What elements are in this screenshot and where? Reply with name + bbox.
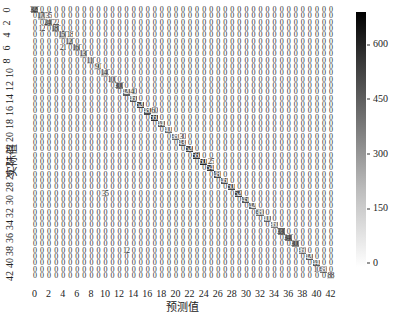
heatmap-cell: 0 xyxy=(299,273,306,279)
y-tick-label: 30 xyxy=(4,195,15,205)
heatmap-cell: 0 xyxy=(292,273,299,279)
heatmap-cell: 0 xyxy=(235,273,242,279)
y-tick-label: 10 xyxy=(4,68,15,78)
x-tick-label: 2 xyxy=(46,288,51,299)
heatmap-cell: 0 xyxy=(179,273,186,279)
x-tick-label: 8 xyxy=(88,288,93,299)
x-tick-label: 26 xyxy=(213,288,223,299)
heatmap-cell: 0 xyxy=(264,273,271,279)
heatmap-cell: 0 xyxy=(172,273,179,279)
heatmap-cell: 0 xyxy=(80,273,87,279)
colorbar-tick-label: 600 xyxy=(367,38,388,49)
heatmap-cell: 0 xyxy=(130,273,137,279)
heatmap-cell: 0 xyxy=(306,273,313,279)
heatmap-cell: 0 xyxy=(249,273,256,279)
colorbar-tick-label: 300 xyxy=(367,147,388,158)
y-tick-label: 4 xyxy=(1,33,12,38)
heatmap-cell: 0 xyxy=(158,273,165,279)
x-tick-label: 28 xyxy=(227,288,237,299)
x-tick-label: 36 xyxy=(283,288,293,299)
heatmap-cell: 88 xyxy=(327,273,334,279)
x-tick-label: 40 xyxy=(311,288,321,299)
heatmap-plot-area: 3290000000000000000000000000000000000000… xyxy=(31,7,334,279)
x-tick-label: 6 xyxy=(74,288,79,299)
y-tick-label: 2 xyxy=(1,20,12,25)
heatmap-cell: 0 xyxy=(165,273,172,279)
heatmap-cell: 0 xyxy=(285,273,292,279)
heatmap-cell: 0 xyxy=(242,273,249,279)
y-tick-label: 12 xyxy=(4,81,15,91)
x-tick-label: 0 xyxy=(32,288,37,299)
y-tick-label: 34 xyxy=(4,220,15,230)
y-tick-label: 18 xyxy=(4,119,15,129)
x-tick-label: 30 xyxy=(241,288,251,299)
y-tick-label: 8 xyxy=(1,58,12,63)
x-tick-label: 38 xyxy=(297,288,307,299)
y-tick-label: 38 xyxy=(4,246,15,256)
heatmap-cell: 0 xyxy=(256,273,263,279)
heatmap-cell: 0 xyxy=(313,273,320,279)
heatmap-cell: 0 xyxy=(144,273,151,279)
y-axis-label: 实际值 xyxy=(3,144,19,177)
heatmap-cell: 0 xyxy=(193,273,200,279)
x-tick-label: 18 xyxy=(156,288,166,299)
heatmap-cell: 0 xyxy=(123,273,130,279)
heatmap-cell: 0 xyxy=(271,273,278,279)
x-tick-label: 4 xyxy=(60,288,65,299)
heatmap-cell: 0 xyxy=(186,273,193,279)
colorbar-tick-label: 450 xyxy=(367,93,388,104)
heatmap-cell: 0 xyxy=(214,273,221,279)
heatmap-cell: 0 xyxy=(137,273,144,279)
colorbar xyxy=(356,12,366,267)
heatmap-cell: 0 xyxy=(38,273,45,279)
x-axis-label: 预测值 xyxy=(166,298,199,314)
x-tick-label: 12 xyxy=(114,288,124,299)
heatmap-cell: 0 xyxy=(109,273,116,279)
x-tick-label: 16 xyxy=(142,288,152,299)
heatmap-cell: 0 xyxy=(59,273,66,279)
x-tick-label: 32 xyxy=(255,288,265,299)
heatmap-cell: 0 xyxy=(66,273,73,279)
heatmap-cell: 0 xyxy=(221,273,228,279)
heatmap-cell: 0 xyxy=(94,273,101,279)
x-tick-label: 42 xyxy=(325,288,335,299)
y-tick-label: 14 xyxy=(4,94,15,104)
heatmap-cell: 0 xyxy=(116,273,123,279)
y-tick-label: 32 xyxy=(4,208,15,218)
x-tick-label: 14 xyxy=(128,288,138,299)
heatmap-cell: 0 xyxy=(320,273,327,279)
heatmap-cell: 0 xyxy=(45,273,52,279)
y-tick-label: 40 xyxy=(4,258,15,268)
y-tick-label: 20 xyxy=(4,132,15,142)
y-tick-label: 42 xyxy=(4,271,15,281)
heatmap-cell: 0 xyxy=(73,273,80,279)
colorbar-tick-label: 0 xyxy=(367,257,378,268)
colorbar-tick-label: 150 xyxy=(367,202,388,213)
y-tick-label: 36 xyxy=(4,233,15,243)
heatmap-cell: 0 xyxy=(101,273,108,279)
heatmap-cell: 0 xyxy=(207,273,214,279)
heatmap-cell: 0 xyxy=(200,273,207,279)
heatmap-cell: 0 xyxy=(87,273,94,279)
y-tick-label: 6 xyxy=(1,46,12,51)
heatmap-cell: 0 xyxy=(151,273,158,279)
y-tick-label: 0 xyxy=(1,8,12,13)
heatmap-cell: 0 xyxy=(228,273,235,279)
heatmap-cell: 0 xyxy=(278,273,285,279)
x-tick-label: 24 xyxy=(199,288,209,299)
heatmap-cell: 0 xyxy=(31,273,38,279)
heatmap-cell: 0 xyxy=(52,273,59,279)
y-tick-label: 28 xyxy=(4,182,15,192)
x-tick-label: 10 xyxy=(100,288,110,299)
y-tick-label: 16 xyxy=(4,106,15,116)
x-tick-label: 34 xyxy=(269,288,279,299)
